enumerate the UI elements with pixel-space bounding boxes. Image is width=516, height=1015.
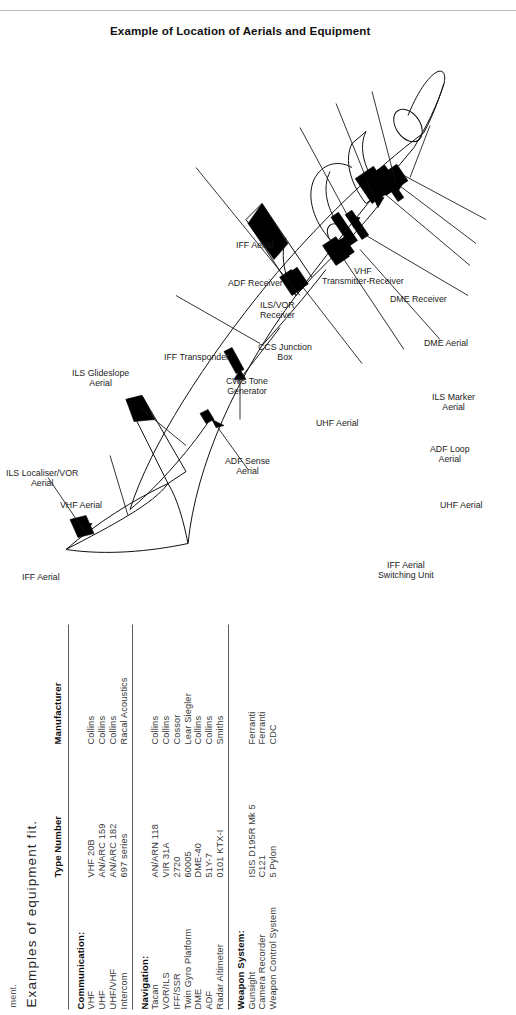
callout-iff-aerial-switching-unit: IFF Aerial Switching Unit <box>378 559 434 579</box>
cell-type: 5 Pylon <box>268 744 279 877</box>
table-row: Intercom 697 series Racal Acoustics <box>118 624 129 1009</box>
cell-item: Camera Recorder <box>257 877 268 1009</box>
equipment-fit-section: ment. Examples of equipment fit. Type Nu… <box>0 595 516 1015</box>
callout-iff-transponder: IFF Transponder <box>164 351 229 361</box>
cell-type: ISIS D195R Mk 5 <box>246 744 257 877</box>
cell-item: Gunsight <box>246 877 257 1009</box>
callout-ils-glideslope-aerial: ILS Glideslope Aerial <box>72 367 129 387</box>
table-body: Communication: VHF VHF 20B Collins UHF A… <box>72 624 279 1009</box>
cell-type: AN/ARC 182 <box>107 744 118 877</box>
cell-maker: Racal Acoustics <box>118 624 129 744</box>
block-iff-transponder <box>280 267 309 295</box>
cell-maker: Collins <box>86 624 97 744</box>
callout-vhf-aerial: VHF Aerial <box>60 499 102 509</box>
cell-item: Intercom <box>118 877 129 1009</box>
cell-maker: Collins <box>204 624 215 744</box>
callout-adf-sense-aerial: ADF Sense Aerial <box>225 455 270 475</box>
table-row: Weapon Control System 5 Pylon CDC <box>268 624 279 1009</box>
cell-item: UHF/VHF <box>107 877 118 1009</box>
callout-ccs-junction-box: CCS Junction Box <box>258 341 312 361</box>
callout-ils-vor-receiver: ILS/VOR Receiver <box>260 299 295 319</box>
airframe-outline <box>66 71 445 552</box>
table-row: Twin Gyro Platform 60005 Lear Siegler <box>182 624 193 1009</box>
callout-uhf-aerial-top: UHF Aerial <box>316 417 359 427</box>
table-row: UHF AN/ARC 159 Collins <box>97 624 108 1009</box>
callout-ils-marker-aerial: ILS Marker Aerial <box>432 391 475 411</box>
cell-maker: Collins <box>150 624 161 744</box>
figure-caption: Example of Location of Aerials and Equip… <box>110 23 123 36</box>
cell-item: Weapon Control System <box>268 877 279 1009</box>
group-heading-weapon-system: Weapon System: <box>232 624 246 1009</box>
equipment-fit-table: Type Number Manufacturer Communication: <box>52 609 279 1009</box>
cell-maker: Collins <box>161 624 172 744</box>
callout-cws-tone-generator: CWS Tone Generator <box>226 375 268 395</box>
cell-item: DME <box>193 877 204 1009</box>
scanned-page: ment. Examples of equipment fit. Type Nu… <box>0 0 516 1015</box>
table-row: Radar Altimeter 0101 KTX-I Smiths <box>215 624 226 1009</box>
callout-ils-localiser-vor-aerial: ILS Localiser/VOR Aerial <box>6 467 78 487</box>
group-title: Communication: <box>72 624 86 1009</box>
table-row: DME DME-40 Collins <box>193 624 204 1009</box>
cell-maker: Ferranti <box>257 624 268 744</box>
cut-off-text: ment. <box>8 983 18 1007</box>
cell-item: Tacan <box>150 877 161 1009</box>
callout-vhf-transmitter-receiver: VHF Transmitter-Receiver <box>322 265 404 285</box>
cell-type: 697 series <box>118 744 129 877</box>
group-title: Navigation: <box>136 624 150 1009</box>
cell-item: VOR/ILS <box>161 877 172 1009</box>
group-heading-communication: Communication: <box>72 624 86 1009</box>
cell-maker: Collins <box>97 624 108 744</box>
table-row: VOR/ILS VIR 31A Collins <box>161 624 172 1009</box>
cell-maker: Smiths <box>215 624 226 744</box>
table-row: Camera Recorder C121 Ferranti <box>257 624 268 1009</box>
table-row: IFF/SSR 2720 Cossor <box>171 624 182 1009</box>
table-header-row: Type Number Manufacturer <box>52 624 65 1009</box>
cell-type: C121 <box>257 744 268 877</box>
col-header-maker: Manufacturer <box>52 624 65 744</box>
cell-type: 0101 KTX-I <box>215 744 226 877</box>
cell-item: UHF <box>97 877 108 1009</box>
cell-maker: Lear Siegler <box>182 624 193 744</box>
cell-type: AN/ARN 118 <box>150 744 161 877</box>
callout-uhf-aerial-lower: UHF Aerial <box>440 499 483 509</box>
callout-dme-aerial: DME Aerial <box>424 337 468 347</box>
cell-maker: Cossor <box>171 624 182 744</box>
cell-type: 51Y-7 <box>204 744 215 877</box>
cell-maker: Ferranti <box>246 624 257 744</box>
table-row: ADF 51Y-7 Collins <box>204 624 215 1009</box>
col-header-item <box>52 877 65 1009</box>
cell-item: ADF <box>204 877 215 1009</box>
col-header-type: Type Number <box>52 744 65 877</box>
callout-iff-aerial-lower: IFF Aerial <box>236 239 274 249</box>
callout-iff-aerial-tail: IFF Aerial <box>22 571 60 581</box>
callout-adf-loop-aerial: ADF Loop Aerial <box>430 443 470 463</box>
cell-maker: CDC <box>268 624 279 744</box>
cell-item: Twin Gyro Platform <box>182 877 193 1009</box>
callout-dme-receiver: DME Receiver <box>390 293 447 303</box>
cell-type: VIR 31A <box>161 744 172 877</box>
group-title: Weapon System: <box>232 624 246 1009</box>
cell-item: IFF/SSR <box>171 877 182 1009</box>
group-heading-navigation: Navigation: <box>136 624 150 1009</box>
cell-type: 60005 <box>182 744 193 877</box>
cell-type: AN/ARC 159 <box>97 744 108 877</box>
cell-maker: Collins <box>107 624 118 744</box>
table-row: VHF VHF 20B Collins <box>86 624 97 1009</box>
cell-type: 2720 <box>171 744 182 877</box>
rotated-page-content: ment. Examples of equipment fit. Type Nu… <box>0 0 516 1015</box>
intro-sentence: Examples of equipment fit. <box>24 819 39 1007</box>
table-row: Gunsight ISIS D195R Mk 5 Ferranti <box>246 624 257 1009</box>
callout-adf-receiver: ADF Receiver <box>228 277 283 287</box>
cell-type: VHF 20B <box>86 744 97 877</box>
cell-item: VHF <box>86 877 97 1009</box>
table-row: UHF/VHF AN/ARC 182 Collins <box>107 624 118 1009</box>
cell-item: Radar Altimeter <box>215 877 226 1009</box>
cell-type: DME-40 <box>193 744 204 877</box>
aerial-location-figure: VHF Aerial ADF Sense Aerial UHF Aerial I… <box>0 0 516 595</box>
cell-maker: Collins <box>193 624 204 744</box>
table-row: Tacan AN/ARN 118 Collins <box>150 624 161 1009</box>
